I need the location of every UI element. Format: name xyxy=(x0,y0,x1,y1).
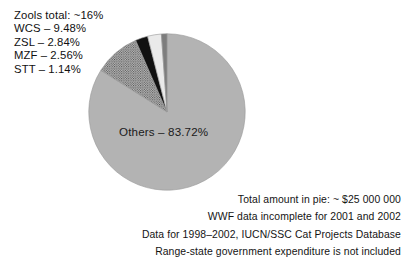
chart-canvas: Zools total: ~16% WCS – 9.48% ZSL – 2.84… xyxy=(0,0,410,266)
footnote-data-source: Data for 1998–2002, IUCN/SSC Cat Project… xyxy=(71,226,401,243)
footnote-total-amount: Total amount in pie: ~ $25 000 000 xyxy=(71,191,401,208)
pie-slice-group xyxy=(89,34,245,190)
pie-chart-svg xyxy=(88,33,246,191)
pie-chart xyxy=(88,33,246,191)
legend-line-zoos-total: Zools total: ~16% xyxy=(14,9,194,22)
footnotes: Total amount in pie: ~ $25 000 000 WWF d… xyxy=(71,191,401,260)
footnote-range-state: Range-state government expenditure is no… xyxy=(71,243,401,260)
footnote-wwf-data: WWF data incomplete for 2001 and 2002 xyxy=(71,208,401,225)
pie-slice-label-others: Others – 83.72% xyxy=(119,125,208,138)
